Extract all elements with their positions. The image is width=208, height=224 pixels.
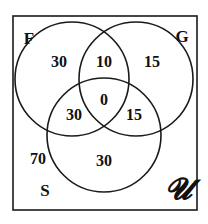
- set-label-g: G: [175, 28, 188, 45]
- region-outside: 70: [30, 151, 46, 167]
- set-label-s: S: [40, 182, 49, 199]
- region-f-g-s: 0: [100, 92, 108, 108]
- venn-diagram: F G S 30 10 15 0 30 15 30 70 𝓤: [0, 0, 208, 224]
- region-f-only: 30: [51, 54, 67, 70]
- region-g-and-s: 15: [126, 107, 142, 123]
- region-f-and-s: 30: [66, 107, 82, 123]
- set-label-f: F: [24, 30, 34, 47]
- region-s-only: 30: [96, 153, 112, 169]
- region-f-and-g: 10: [96, 54, 112, 70]
- universe-label: 𝓤: [165, 174, 192, 204]
- region-g-only: 15: [144, 54, 160, 70]
